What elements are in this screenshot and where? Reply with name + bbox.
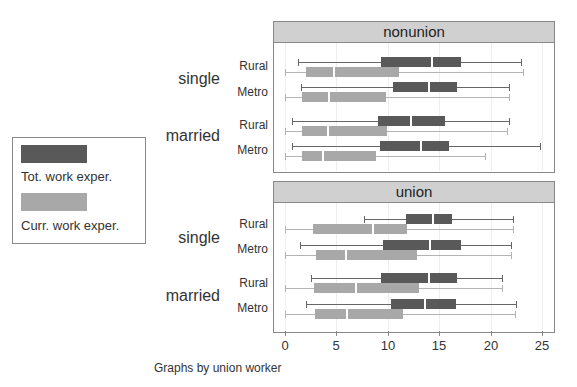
- box-tot: [383, 240, 461, 250]
- row-label-rural: Rural: [218, 118, 268, 132]
- gridline: [542, 203, 543, 331]
- box-curr: [315, 309, 403, 319]
- x-tick: [388, 331, 389, 336]
- whisker-cap: [292, 118, 293, 125]
- group-label: single: [140, 70, 220, 88]
- median-line: [429, 240, 431, 250]
- whisker-cap: [516, 301, 517, 308]
- median-line: [424, 299, 426, 309]
- median-line: [328, 92, 330, 102]
- whisker-cap: [540, 143, 541, 150]
- box-curr: [314, 283, 419, 293]
- whisker-cap: [285, 285, 286, 292]
- whisker-cap: [292, 143, 293, 150]
- row-label-metro: Metro: [218, 242, 268, 256]
- whisker-cap: [306, 301, 307, 308]
- chart-note: Graphs by union worker: [154, 361, 281, 375]
- x-tick: [542, 331, 543, 336]
- whisker-cap: [298, 59, 299, 66]
- whisker-cap: [509, 118, 510, 125]
- gridline: [491, 203, 492, 331]
- x-tick-label: 5: [321, 338, 351, 353]
- legend-swatch-curr: [21, 193, 87, 211]
- group-label: married: [140, 287, 220, 305]
- whisker-cap: [285, 252, 286, 259]
- x-tick-label: 20: [476, 338, 506, 353]
- gridline: [542, 43, 543, 171]
- x-tick: [285, 331, 286, 336]
- whisker-cap: [364, 216, 365, 223]
- whisker-cap: [507, 128, 508, 135]
- panel-title: union: [274, 182, 554, 203]
- row-label-metro: Metro: [218, 143, 268, 157]
- whisker-cap: [502, 275, 503, 282]
- x-tick-label: 25: [527, 338, 557, 353]
- legend-label-tot: Tot. work exper.: [21, 169, 112, 184]
- median-line: [428, 273, 430, 283]
- whisker-cap: [285, 311, 286, 318]
- whisker-cap: [523, 69, 524, 76]
- whisker-cap: [285, 153, 286, 160]
- whisker-cap: [311, 275, 312, 282]
- median-line: [428, 82, 430, 92]
- median-line: [333, 67, 335, 77]
- whisker-cap: [285, 69, 286, 76]
- box-tot: [381, 273, 457, 283]
- row-label-rural: Rural: [218, 59, 268, 73]
- whisker-cap: [511, 242, 512, 249]
- group-label: married: [140, 127, 220, 145]
- whisker-cap: [515, 311, 516, 318]
- box-curr: [313, 224, 408, 234]
- whisker-cap: [301, 84, 302, 91]
- whisker-cap: [511, 252, 512, 259]
- x-tick: [336, 331, 337, 336]
- box-tot: [393, 82, 457, 92]
- median-line: [322, 151, 324, 161]
- box-curr: [302, 151, 376, 161]
- box-curr: [302, 126, 386, 136]
- group-label: single: [140, 229, 220, 247]
- whisker-cap: [285, 226, 286, 233]
- gridline: [285, 43, 286, 171]
- median-line: [372, 224, 374, 234]
- whisker-cap: [521, 59, 522, 66]
- whisker-cap: [300, 242, 301, 249]
- whisker-cap: [509, 84, 510, 91]
- chart-legend: Tot. work exper. Curr. work exper.: [12, 137, 146, 244]
- whisker-cap: [513, 216, 514, 223]
- panel-title: nonunion: [274, 22, 554, 43]
- median-line: [431, 57, 433, 67]
- whisker-cap: [502, 285, 503, 292]
- box-tot: [381, 57, 461, 67]
- whisker-cap: [285, 128, 286, 135]
- median-line: [432, 214, 434, 224]
- row-label-rural: Rural: [218, 217, 268, 231]
- row-label-metro: Metro: [218, 85, 268, 99]
- x-tick: [491, 331, 492, 336]
- legend-label-curr: Curr. work exper.: [21, 218, 119, 233]
- legend-swatch-tot: [21, 145, 87, 163]
- median-line: [327, 126, 329, 136]
- median-line: [346, 309, 348, 319]
- median-line: [410, 116, 412, 126]
- row-label-rural: Rural: [218, 276, 268, 290]
- box-curr: [316, 250, 417, 260]
- whisker-cap: [509, 94, 510, 101]
- whisker-cap: [485, 153, 486, 160]
- whisker-cap: [513, 226, 514, 233]
- x-tick: [439, 331, 440, 336]
- x-tick-label: 0: [270, 338, 300, 353]
- box-tot: [380, 141, 450, 151]
- box-curr: [306, 67, 400, 77]
- whisker-cap: [285, 94, 286, 101]
- box-tot: [406, 214, 451, 224]
- median-line: [345, 250, 347, 260]
- box-curr: [302, 92, 385, 102]
- median-line: [355, 283, 357, 293]
- row-label-metro: Metro: [218, 301, 268, 315]
- median-line: [420, 141, 422, 151]
- x-tick-label: 10: [373, 338, 403, 353]
- x-tick-label: 15: [424, 338, 454, 353]
